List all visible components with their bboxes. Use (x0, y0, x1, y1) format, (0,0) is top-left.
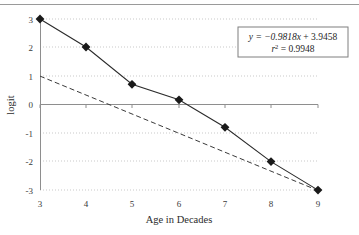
x-tick-label: 8 (269, 199, 274, 209)
x-tick-label: 9 (316, 199, 321, 209)
data-point-marker (221, 123, 230, 132)
x-axis-tick-labels: 3 4 5 6 7 8 9 (38, 199, 321, 209)
regression-annotation-box: y = −0.9818x + 3.9458 r2 = 0.9948 (238, 27, 348, 57)
zero-axis-line (40, 105, 318, 109)
y-tick-label: 0 (29, 100, 34, 110)
x-axis-title: Age in Decades (146, 214, 212, 225)
y-tick-label: -3 (26, 186, 34, 196)
data-point-marker (267, 157, 276, 166)
y-tick-label: 1 (29, 72, 34, 82)
r-value: = 0.9948 (278, 44, 314, 54)
y-tick-label: -2 (26, 157, 34, 167)
equation-prefix: y = −0.9818 (248, 32, 297, 42)
x-tick-label: 3 (38, 199, 43, 209)
y-tick-label: 3 (29, 15, 34, 25)
regression-equation-text: y = −0.9818x + 3.9458 (248, 32, 338, 42)
x-tick-label: 6 (177, 199, 182, 209)
y-axis-title: logit (5, 95, 16, 114)
figure-container: 3 2 1 0 -1 -2 -3 3 4 5 6 7 8 9 Age in De… (0, 0, 359, 235)
y-axis-tick-labels: 3 2 1 0 -1 -2 -3 (26, 15, 34, 196)
data-point-marker (314, 186, 323, 195)
logit-vs-age-chart: 3 2 1 0 -1 -2 -3 3 4 5 6 7 8 9 Age in De… (0, 0, 359, 235)
y-tick-label: -1 (26, 129, 34, 139)
equation-suffix: + 3.9458 (301, 32, 337, 42)
data-point-marker (175, 95, 184, 104)
r-squared-text: r2 = 0.9948 (271, 43, 314, 54)
x-tick-label: 4 (84, 199, 89, 209)
x-tick-label: 7 (223, 199, 228, 209)
y-tick-label: 2 (29, 43, 34, 53)
data-point-marker (36, 15, 45, 24)
x-tick-label: 5 (130, 199, 135, 209)
